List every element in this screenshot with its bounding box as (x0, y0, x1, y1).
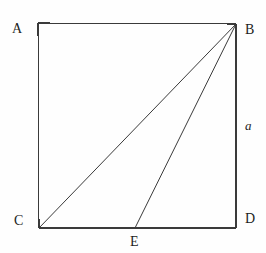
vertex-label-b: B (245, 23, 254, 37)
side-length-label-a: a (245, 119, 252, 132)
geometry-canvas (0, 0, 266, 253)
square-side-top (38, 23, 236, 24)
geometry-figure: A B C D E a (0, 0, 266, 253)
vertex-label-c: C (14, 214, 23, 228)
vertex-label-d: D (245, 212, 255, 226)
vertex-label-a: A (12, 22, 22, 36)
diagonal-b-to-c (39, 24, 236, 228)
vertex-label-e: E (130, 235, 139, 249)
square-side-left (38, 23, 39, 228)
segment-b-to-e (135, 24, 236, 228)
